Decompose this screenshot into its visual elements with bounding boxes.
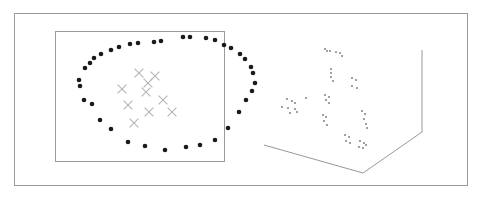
scatter3d-point-marker xyxy=(294,102,296,104)
scatter3d-point-marker xyxy=(289,112,291,114)
scatter3d-point-marker xyxy=(330,76,332,78)
scatter3d-point-marker xyxy=(324,94,326,96)
scatter3d-point-marker xyxy=(351,77,353,79)
scatter3d-point-marker xyxy=(328,102,330,104)
scatter3d-point-marker xyxy=(287,107,289,109)
scatter3d-point-marker xyxy=(326,50,328,52)
scatter3d-point-marker xyxy=(324,48,326,50)
scatter3d-point-marker xyxy=(325,99,327,101)
scatter3d-point-marker xyxy=(356,87,358,89)
scatter3d-point-marker xyxy=(361,110,363,112)
scatter3d-point-marker xyxy=(281,106,283,108)
scatter3d-point-marker xyxy=(325,116,327,118)
scatter3d-point-marker xyxy=(359,140,361,142)
scatter3d-point-marker xyxy=(322,114,324,116)
scatter3d-point-marker xyxy=(296,111,298,113)
scatter3d-point-marker xyxy=(294,108,296,110)
scatter3d-point-marker xyxy=(328,96,330,98)
scatter3d-point-marker xyxy=(326,124,328,126)
scatter3d-point-marker xyxy=(366,127,368,129)
scatter3d-point-marker xyxy=(323,120,325,122)
figure-container xyxy=(0,0,484,202)
floor-right-edge xyxy=(363,132,422,173)
scatter3d-point-marker xyxy=(363,118,365,120)
scatter3d-point-marker xyxy=(286,98,288,100)
scatter3d-point-marker xyxy=(291,100,293,102)
scatter3d-point-marker xyxy=(335,51,337,53)
scatter3d-point-marker xyxy=(362,147,364,149)
scatter3d-point-marker xyxy=(339,52,341,54)
floor-left-edge xyxy=(264,145,363,173)
scatter3d-point-marker xyxy=(345,140,347,142)
scatter3d-point-marker xyxy=(330,68,332,70)
scatter3d-point-marker xyxy=(329,50,331,52)
scatter3d-point-marker xyxy=(348,136,350,138)
scatter3d-point-marker xyxy=(365,144,367,146)
scatter3d-point-marker xyxy=(358,146,360,148)
scatter-3d-points-layer xyxy=(0,0,484,202)
scatter3d-point-marker xyxy=(332,80,334,82)
scatter3d-point-marker xyxy=(330,72,332,74)
scatter3d-point-marker xyxy=(344,134,346,136)
scatter3d-point-marker xyxy=(365,123,367,125)
scatter3d-point-marker xyxy=(364,113,366,115)
scatter3d-point-marker xyxy=(305,97,307,99)
scatter3d-point-marker xyxy=(351,85,353,87)
scatter3d-point-marker xyxy=(363,142,365,144)
scatter3d-point-marker xyxy=(341,55,343,57)
scatter3d-point-marker xyxy=(349,142,351,144)
scatter3d-point-marker xyxy=(355,79,357,81)
